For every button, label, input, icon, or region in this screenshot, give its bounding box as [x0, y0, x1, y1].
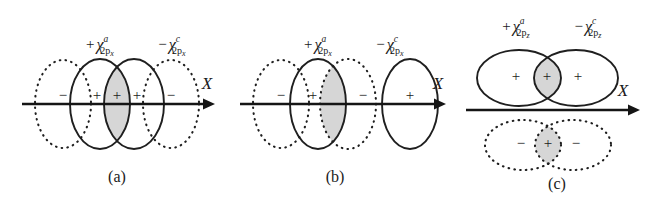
panel-b-axis-label: X — [432, 74, 444, 93]
figure-root: +χa2px −χc2px X − + + + — [0, 0, 670, 208]
panel-a-sign-2: + — [93, 87, 101, 103]
panel-a-orbital-label-right: −χc2px — [158, 34, 186, 58]
panel-b: +χa2px −χc2px X − + − + (b) — [240, 34, 446, 185]
panel-c-upper-sign-right: + — [574, 68, 582, 84]
panel-a-caption: (a) — [108, 168, 126, 186]
panel-c: +χa2pz −χc2pz + + + − + − — [466, 16, 640, 192]
panel-c-lower-sign-left: − — [517, 135, 525, 151]
panel-a-sign-3: + — [133, 87, 141, 103]
panel-b-caption: (b) — [326, 168, 345, 186]
panel-c-axis-arrowhead — [628, 105, 640, 116]
panel-b-orbital-label-left: +χa2px — [304, 34, 332, 58]
panel-a-axis-arrowhead — [203, 99, 215, 110]
panel-c-axis-label: X — [617, 81, 629, 100]
panel-b-sign-3: − — [359, 87, 367, 103]
panel-b-axis-arrowhead — [434, 99, 446, 110]
panel-b-sign-2: + — [309, 87, 317, 103]
panel-a-sign-4: − — [167, 87, 175, 103]
panel-b-sign-4: + — [406, 87, 414, 103]
orbital-overlap-diagram: +χa2px −χc2px X − + + + — [0, 0, 670, 208]
panel-a: +χa2px −χc2px X − + + + — [22, 34, 215, 185]
panel-b-orbital-label-right: −χc2px — [376, 34, 404, 58]
panel-c-lower-sign-overlap: + — [544, 135, 552, 151]
panel-c-upper-sign-overlap: + — [543, 68, 551, 84]
panel-c-upper-sign-left: + — [512, 68, 520, 84]
panel-b-sign-1: − — [277, 87, 285, 103]
panel-c-orbital-label-right: −χc2pz — [575, 16, 603, 40]
panel-c-orbital-label-left: +χa2pz — [502, 16, 530, 40]
panel-a-orbital-label-left: +χa2px — [86, 34, 114, 58]
panel-c-caption: (c) — [548, 175, 566, 193]
panel-a-sign-1: − — [59, 87, 67, 103]
panel-c-lower-sign-right: − — [572, 135, 580, 151]
panel-a-sign-overlap: + — [113, 87, 121, 103]
panel-a-axis-label: X — [201, 74, 213, 93]
